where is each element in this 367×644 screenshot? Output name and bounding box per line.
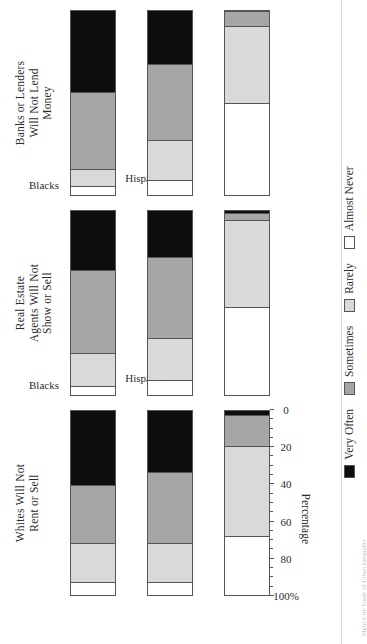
segment-almost-never	[148, 380, 192, 395]
bar-row-hispanics	[147, 410, 193, 596]
stacked-bar[interactable]	[224, 410, 270, 596]
segment-sometimes	[148, 257, 192, 338]
legend-swatch-icon	[344, 382, 355, 395]
bar-row-asians	[224, 210, 270, 396]
segment-sometimes	[225, 11, 269, 26]
panel-2: Real EstateAgents Will NotShow or SellBl…	[18, 210, 270, 396]
segment-sometimes	[225, 415, 269, 446]
bar-row-asians	[224, 410, 270, 596]
bar-row-asians	[224, 10, 270, 196]
bar-row-blacks	[70, 210, 116, 396]
legend-label: Very Often	[343, 409, 355, 460]
segment-very-often	[148, 411, 192, 472]
axis-tick-minor	[270, 502, 273, 503]
legend-swatch-icon	[344, 465, 355, 478]
plot-area: 100%806040200	[70, 410, 270, 596]
segment-sometimes	[71, 92, 115, 169]
panel-3: Banks or LendersWill Not LendMoneyBlacks…	[18, 10, 270, 196]
segment-very-often	[225, 411, 269, 415]
stacked-bar[interactable]	[147, 210, 193, 396]
axis-tick-minor	[270, 530, 273, 531]
segment-very-often	[225, 211, 269, 213]
axis-tick-minor	[270, 418, 273, 419]
axis-tick-minor	[270, 465, 273, 466]
value-axis-title: Percentage	[300, 494, 312, 544]
stacked-bar[interactable]	[147, 410, 193, 596]
axis-tick-major	[270, 483, 274, 484]
axis-tick-label: 20	[281, 441, 292, 453]
segment-sometimes	[148, 64, 192, 139]
segment-almost-never	[71, 386, 115, 395]
axis-tick-minor	[270, 549, 273, 550]
axis-tick-minor	[270, 437, 273, 438]
segment-very-often	[71, 411, 115, 485]
stacked-bar[interactable]	[147, 10, 193, 196]
segment-very-often	[71, 11, 115, 92]
segment-rarely	[71, 169, 115, 186]
segment-very-often	[71, 211, 115, 270]
segment-rarely	[225, 446, 269, 536]
legend-item-sometimes[interactable]: Sometimes	[343, 326, 355, 395]
segment-very-often	[148, 11, 192, 64]
segment-rarely	[148, 140, 192, 180]
axis-tick-minor	[270, 493, 273, 494]
legend-item-very-often[interactable]: Very Often	[343, 409, 355, 478]
legend-label: Rarely	[343, 263, 355, 294]
segment-rarely	[225, 220, 269, 306]
segment-almost-never	[71, 582, 115, 595]
segment-almost-never	[225, 103, 269, 195]
segment-almost-never	[225, 536, 269, 595]
bar-group	[70, 10, 270, 196]
stacked-bar[interactable]	[224, 210, 270, 396]
segment-sometimes	[71, 270, 115, 353]
bar-row-hispanics	[147, 210, 193, 396]
axis-tick-minor	[270, 511, 273, 512]
segment-sometimes	[225, 213, 269, 220]
panel-title: Banks or LendersWill Not LendMoney	[14, 10, 55, 196]
chart-legend: Very OftenSometimesRarelyAlmost Never	[338, 0, 360, 644]
stacked-bar[interactable]	[70, 410, 116, 596]
segment-almost-never	[225, 307, 269, 395]
segment-very-often	[148, 211, 192, 257]
segment-almost-never	[71, 186, 115, 195]
axis-tick-major	[270, 446, 274, 447]
plot-area	[70, 210, 270, 396]
legend-label: Sometimes	[343, 326, 355, 377]
value-axis-line: 100%806040200	[269, 410, 270, 596]
axis-tick-label: 100%	[273, 590, 299, 602]
plot-area	[70, 10, 270, 196]
bar-row-blacks	[70, 10, 116, 196]
figure-caption: Multi-City Study of Urban Inequality	[361, 539, 367, 636]
axis-tick-label: 0	[283, 404, 289, 416]
stacked-bar[interactable]	[70, 210, 116, 396]
bar-group	[70, 410, 270, 596]
stacked-bar[interactable]	[70, 10, 116, 196]
panel-1: Whites Will NotRent or SellBlacksHispani…	[18, 410, 270, 596]
axis-tick-major	[270, 558, 274, 559]
panel-title: Whites Will NotRent or Sell	[14, 410, 41, 596]
panel-title: Real EstateAgents Will NotShow or Sell	[14, 210, 55, 396]
segment-rarely	[225, 26, 269, 103]
axis-tick-label: 40	[281, 478, 292, 490]
legend-item-rarely[interactable]: Rarely	[343, 263, 355, 312]
bar-group	[70, 210, 270, 396]
segment-rarely	[71, 353, 115, 386]
segment-rarely	[148, 543, 192, 582]
axis-tick-minor	[270, 576, 273, 577]
axis-tick-minor	[270, 428, 273, 429]
axis-tick-minor	[270, 474, 273, 475]
stacked-bar[interactable]	[224, 10, 270, 196]
segment-almost-never	[148, 582, 192, 595]
segment-almost-never	[148, 180, 192, 195]
axis-tick-minor	[270, 586, 273, 587]
segment-rarely	[71, 543, 115, 582]
bar-row-hispanics	[147, 10, 193, 196]
axis-tick-major	[270, 409, 274, 410]
axis-tick-label: 60	[281, 516, 292, 528]
legend-swatch-icon	[344, 236, 355, 249]
legend-item-almost-never[interactable]: Almost Never	[343, 166, 355, 249]
bar-row-blacks	[70, 410, 116, 596]
legend-swatch-icon	[344, 299, 355, 312]
segment-sometimes	[71, 485, 115, 544]
